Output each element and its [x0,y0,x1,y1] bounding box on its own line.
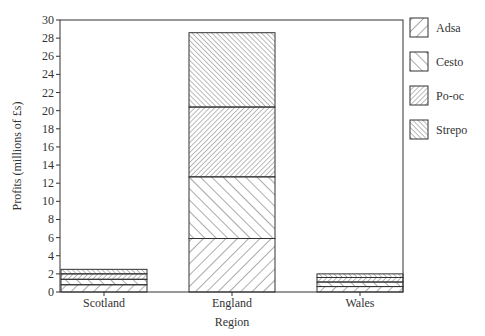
y-tick-label: 18 [42,122,54,136]
legend-label: Po-oc [436,89,464,103]
y-tick-label: 0 [48,285,54,299]
bar-segment-strepo [189,33,275,107]
y-tick-label: 10 [42,194,54,208]
legend-item-cesto: Cesto [410,52,463,71]
y-tick-label: 6 [48,231,54,245]
x-axis-title: Region [215,315,250,329]
legend-swatch [410,52,428,71]
legend: AdsaCestoPo-ocStrepo [410,18,467,139]
bar-segment-po-oc [317,277,403,282]
bar-england [189,33,275,292]
bar-segment-adsa [61,285,147,292]
bar-segment-adsa [189,239,275,292]
x-tick-label: Scotland [83,296,125,310]
legend-item-adsa: Adsa [410,18,461,37]
bar-segment-cesto [189,177,275,239]
legend-swatch [410,86,428,105]
y-tick-label: 22 [42,86,54,100]
stacked-bar-chart: 024681012141618202224262830 ScotlandEngl… [0,0,485,336]
bar-segment-strepo [61,269,147,274]
y-tick-label: 24 [42,67,54,81]
y-tick-label: 4 [48,249,54,263]
y-tick-label: 20 [42,104,54,118]
legend-label: Cesto [436,55,463,69]
y-tick-label: 26 [42,49,54,63]
legend-label: Adsa [436,21,461,35]
legend-item-po-oc: Po-oc [410,86,464,105]
legend-swatch [410,18,428,37]
bar-segment-cesto [61,279,147,284]
bar-segment-cesto [317,282,403,287]
y-tick-label: 2 [48,267,54,281]
x-tick-label: Wales [345,296,374,310]
y-tick-label: 30 [42,13,54,27]
bar-segment-strepo [317,274,403,278]
y-tick-label: 14 [42,158,54,172]
legend-item-strepo: Strepo [410,120,467,139]
y-tick-label: 28 [42,31,54,45]
y-axis-title: Profits (millions of £s) [10,101,24,210]
bar-wales [317,274,403,292]
y-axis: 024681012141618202224262830 [42,13,60,299]
bar-segment-adsa [317,287,403,292]
x-tick-label: England [212,296,252,310]
x-axis: ScotlandEnglandWales [83,292,375,310]
bar-segment-po-oc [61,274,147,279]
y-tick-label: 12 [42,176,54,190]
y-tick-label: 16 [42,140,54,154]
bar-segment-po-oc [189,107,275,177]
y-tick-label: 8 [48,212,54,226]
bar-scotland [61,269,147,292]
bars [61,33,403,292]
legend-swatch [410,120,428,139]
legend-label: Strepo [436,123,467,137]
